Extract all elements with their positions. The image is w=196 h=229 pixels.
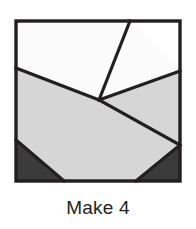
quilt-block-figure — [14, 19, 182, 183]
block-caption: Make 4 — [0, 197, 196, 219]
quilt-instruction-card: Make 4 — [0, 0, 196, 229]
quilt-block-svg — [14, 19, 182, 183]
